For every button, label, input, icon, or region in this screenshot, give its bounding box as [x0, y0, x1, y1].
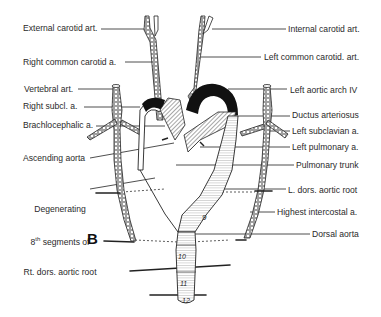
- label-left-subclavian: Left subclavian a.: [292, 126, 359, 136]
- label-left-aortic-arch-iv: Left aortic arch IV: [290, 85, 357, 95]
- degenerating-line-1: Degenerating: [22, 204, 98, 214]
- label-brachiocephalic: Brachlocephalic a.: [23, 120, 93, 130]
- right-dorsal-aorta: [112, 86, 136, 241]
- label-left-pulmonary: Left pulmonary a.: [292, 142, 358, 152]
- label-pulmonary-trunk: Pulmonary trunk: [296, 160, 359, 170]
- label-highest-intercostal: Highest intercostal a.: [277, 207, 357, 217]
- degenerating-line-3: Rt. dors. aortic root: [22, 267, 98, 277]
- dorsal-aorta-trunk: [176, 232, 196, 303]
- label-right-subclavian: Right subcl. a.: [23, 101, 77, 111]
- label-right-common-carotid: Right common carotid a.: [23, 57, 116, 67]
- aortic-sac-hatched: [160, 98, 185, 140]
- label-vertebral: Vertebral art.: [24, 84, 73, 94]
- label-ascending-aorta: Ascending aorta: [23, 153, 85, 163]
- segment-number-12: 12: [182, 296, 190, 306]
- brachiocephalic-trunk: [138, 101, 162, 170]
- label-external-carotid: External carotid art.: [23, 23, 98, 33]
- ascending-aorta-outline: [140, 170, 178, 232]
- segment-number-9: 9: [202, 213, 206, 223]
- panel-letter: B: [87, 230, 98, 247]
- right-external-carotid: [154, 16, 158, 36]
- label-dorsal-aorta: Dorsal aorta: [312, 229, 359, 239]
- label-left-common-carotid: Left common carotid. art.: [264, 52, 359, 62]
- aortic-arch-diagram: 9 10 11 12 External carotid art. Right c…: [0, 0, 381, 317]
- segment-number-11: 11: [180, 279, 187, 289]
- left-dorsal-aorta: [244, 86, 272, 238]
- label-internal-carotid: Internal carotid art.: [288, 24, 360, 34]
- label-ductus-arteriosus: Ductus arteriosus: [292, 110, 359, 120]
- label-l-dors-aortic-root: L. dors. aortic root: [288, 185, 357, 195]
- segment-number-10: 10: [178, 252, 186, 262]
